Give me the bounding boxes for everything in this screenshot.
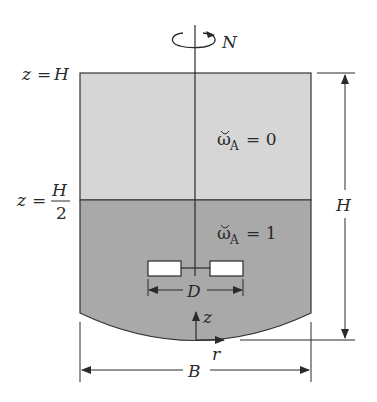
rotation-speed-label: N (221, 32, 238, 52)
z-axis-label: z (202, 307, 213, 327)
svg-text:= 0: = 0 (246, 129, 276, 149)
svg-text:A: A (229, 139, 239, 153)
svg-text:H: H (51, 180, 68, 200)
width-label: B (187, 361, 201, 381)
top-level-label: z = H (21, 64, 70, 84)
mid-level-label: z = H 2 (16, 180, 70, 223)
svg-text:A: A (229, 233, 239, 247)
r-axis-label: r (212, 344, 221, 364)
svg-text:z: z (21, 64, 32, 84)
svg-text:ω: ω (217, 129, 231, 149)
impeller-diameter-label: D (186, 281, 201, 301)
impeller-blade-right (210, 261, 243, 276)
svg-text:= 1: = 1 (246, 223, 276, 243)
svg-text:=: = (37, 64, 51, 84)
svg-text:=: = (32, 190, 46, 210)
rotation-arrow-icon (172, 31, 215, 48)
svg-text:z: z (16, 190, 27, 210)
svg-text:H: H (53, 64, 70, 84)
impeller-blade-left (148, 261, 181, 276)
svg-text:2: 2 (56, 203, 67, 223)
height-label: H (335, 195, 352, 215)
svg-text:ω: ω (217, 223, 231, 243)
stirred-tank-diagram: N D z r H B z = H z = H 2 (0, 0, 377, 402)
